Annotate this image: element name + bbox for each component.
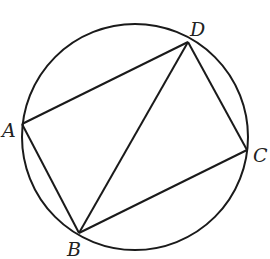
circumcircle xyxy=(22,24,248,250)
label-A: A xyxy=(0,119,16,141)
segment-AD xyxy=(22,42,188,124)
diagram-canvas: A D C B xyxy=(0,0,270,259)
segment-CB xyxy=(79,150,247,233)
segment-DC xyxy=(188,42,247,150)
label-C: C xyxy=(253,144,268,166)
label-B: B xyxy=(66,238,81,259)
segment-BD xyxy=(79,42,188,233)
label-D: D xyxy=(189,18,205,40)
